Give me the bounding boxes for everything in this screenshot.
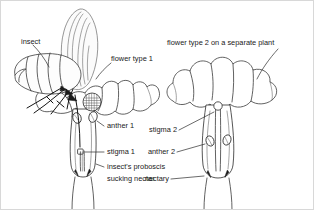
leader-flower-type-1: [96, 63, 111, 79]
leader-proboscis: [96, 164, 104, 167]
label-stigma-1: stigma 1: [107, 147, 135, 156]
leader-anther-2: [177, 144, 205, 152]
label-nectary: nectary: [145, 174, 170, 183]
label-proboscis-line-1: insect's proboscis: [107, 162, 165, 171]
diagram-canvas: insect flower type 1 flower type 2 on a …: [1, 1, 314, 210]
insect-body: [15, 53, 81, 94]
label-insect: insect: [21, 37, 40, 46]
label-anther-1: anther 1: [107, 121, 134, 130]
leader-anther-1: [97, 121, 104, 126]
label-stigma-2: stigma 2: [149, 125, 177, 134]
flower-type-2-stem: [204, 178, 232, 210]
leader-nectary: [171, 176, 204, 179]
pollination-diagram: insect flower type 1 flower type 2 on a …: [0, 0, 314, 210]
flower-type-1-stem: [72, 177, 94, 210]
label-flower-type-1: flower type 1: [111, 54, 153, 63]
label-anther-2: anther 2: [148, 147, 175, 156]
right-plant-group: [167, 57, 277, 210]
pollen-disc: [83, 93, 101, 111]
flower-type-2-corolla: [167, 57, 277, 108]
label-flower-type-2: flower type 2 on a separate plant: [167, 38, 274, 47]
